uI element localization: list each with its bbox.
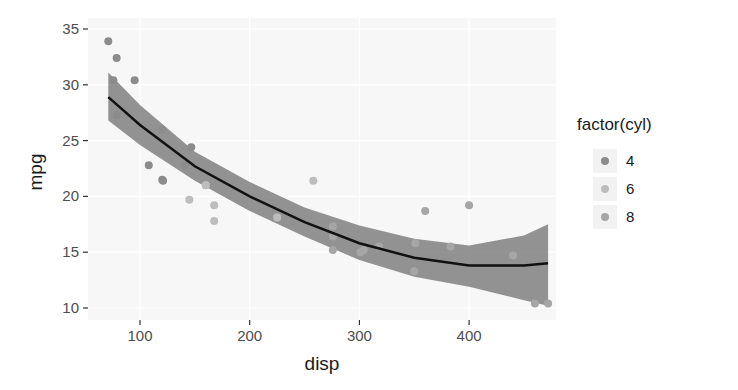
scatter-plot: 101520253035 100200300400 disp mpg facto… [0,0,738,390]
x-axis-title: disp [305,353,340,374]
data-point [329,246,337,254]
data-point [202,181,210,189]
data-point [185,196,193,204]
y-axis-title: mpg [25,154,46,191]
data-point [104,37,112,45]
y-tick-label: 20 [62,187,79,204]
legend-key-icon [601,157,609,165]
data-point [113,111,121,119]
y-tick-label: 25 [62,132,79,149]
legend: factor(cyl) 468 [577,115,652,229]
data-point [273,214,281,222]
data-point [410,267,418,275]
data-point [159,177,167,185]
data-point [187,143,195,151]
data-point [446,243,454,251]
y-tick-label: 15 [62,243,79,260]
data-point [158,125,166,133]
data-point [145,161,153,169]
legend-key-icon [601,185,609,193]
data-point [109,76,117,84]
legend-key-icon [601,213,609,221]
data-point [329,223,337,231]
x-tick-label: 400 [457,327,482,344]
y-tick-label: 35 [62,20,79,37]
data-point [411,239,419,247]
data-point [181,161,189,169]
data-point [509,252,517,260]
data-point [309,177,317,185]
data-point [210,201,218,209]
y-tick-label: 10 [62,299,79,316]
legend-label: 4 [626,152,634,169]
legend-label: 8 [626,208,634,225]
legend-label: 6 [626,180,634,197]
y-tick-label: 30 [62,76,79,93]
y-axis: 101520253035 [62,20,88,316]
data-point [210,217,218,225]
x-axis: 100200300400 [127,320,481,344]
x-tick-label: 300 [347,327,372,344]
data-point [465,201,473,209]
data-point [356,248,364,256]
x-tick-label: 200 [237,327,262,344]
data-point [531,300,539,308]
x-tick-label: 100 [127,327,152,344]
data-point [544,300,552,308]
legend-title: factor(cyl) [577,115,652,134]
data-point [421,207,429,215]
data-point [113,54,121,62]
data-point [131,76,139,84]
